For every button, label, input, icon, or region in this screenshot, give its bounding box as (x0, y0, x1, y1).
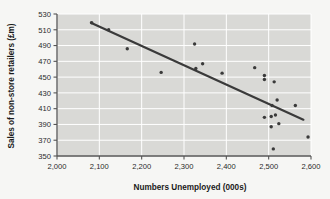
y-tick-label: 490 (38, 41, 51, 50)
x-tick-label: 2,300 (174, 162, 193, 171)
chart-canvas: 350370390410430450470490510530 2,0002,10… (0, 0, 330, 199)
y-tick-label: 470 (38, 57, 51, 66)
data-point (306, 135, 309, 138)
x-tick-label: 2,000 (47, 162, 66, 171)
y-tick-label: 350 (38, 152, 51, 161)
x-tick-label: 2,400 (217, 162, 236, 171)
data-point (159, 71, 162, 74)
x-tick-label: 2,600 (301, 162, 320, 171)
y-tick-label: 390 (38, 120, 51, 129)
data-point (272, 147, 275, 150)
data-point (270, 104, 273, 107)
y-tick-label: 370 (38, 136, 51, 145)
data-point (107, 28, 110, 31)
data-point (263, 116, 266, 119)
y-tick-label: 450 (38, 73, 51, 82)
scatter-chart-figure: 350370390410430450470490510530 2,0002,10… (0, 0, 330, 199)
x-tick-label: 2,200 (132, 162, 151, 171)
y-tick-label: 510 (38, 26, 51, 35)
data-point (90, 21, 93, 24)
x-tick-label: 2,100 (90, 162, 109, 171)
data-point (220, 71, 223, 74)
x-tick-label: 2,500 (259, 162, 278, 171)
data-point (277, 122, 280, 125)
data-point (275, 98, 278, 101)
y-tick-label: 430 (38, 89, 51, 98)
data-point (294, 104, 297, 107)
x-axis-label: Numbers Unemployed (000s) (134, 183, 247, 192)
data-point (263, 78, 266, 81)
y-tick-label: 530 (38, 10, 51, 19)
data-point (194, 67, 197, 70)
data-point (270, 125, 273, 128)
data-point (272, 80, 275, 83)
data-point (201, 62, 204, 65)
data-point (274, 113, 277, 116)
data-point (253, 66, 256, 69)
data-point (193, 42, 196, 45)
y-tick-label: 410 (38, 104, 51, 113)
data-point (263, 74, 266, 77)
data-point (270, 115, 273, 118)
y-axis-label: Sales of non-store retailers (£m) (7, 23, 16, 148)
data-point (126, 47, 129, 50)
